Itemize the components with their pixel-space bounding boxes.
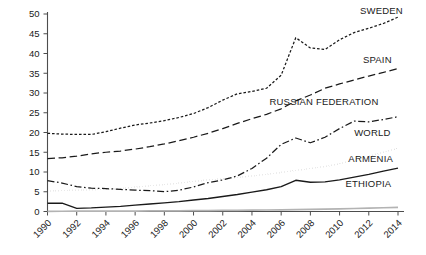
x-tick-label: 2002 [206, 217, 229, 240]
y-tick-label: 5 [34, 186, 39, 197]
y-tick-label: 30 [29, 87, 40, 98]
series-label-armenia: ARMENIA [348, 153, 393, 164]
y-tick-label: 10 [29, 166, 40, 177]
y-axis: 05101520253035404550 [29, 8, 48, 217]
x-tick-label: 2012 [352, 217, 375, 240]
x-tick-label: 1998 [148, 217, 171, 240]
x-tick-label: 1992 [60, 217, 83, 240]
y-tick-label: 35 [29, 68, 40, 79]
x-tick-label: 2010 [323, 217, 346, 240]
y-tick-label: 25 [29, 107, 40, 118]
x-tick-label: 1994 [89, 217, 112, 240]
x-tick-label: 2004 [235, 217, 258, 240]
series-label-russian-federation: RUSSIAN FEDERATION [269, 96, 378, 107]
y-tick-label: 20 [29, 127, 40, 138]
y-tick-label: 15 [29, 147, 40, 158]
x-axis: 1990199219941996199820002002200420062008… [31, 212, 404, 240]
series-label-world: WORLD [354, 127, 390, 138]
series-line-spain [48, 69, 399, 159]
x-tick-label: 1990 [31, 217, 54, 240]
series-label-ethiopia: ETHIOPIA [345, 178, 391, 189]
x-tick-label: 2006 [264, 217, 287, 240]
x-tick-label: 1996 [118, 217, 141, 240]
y-tick-label: 40 [29, 48, 40, 59]
y-tick-label: 0 [34, 206, 39, 217]
x-tick-group: 1990199219941996199820002002200420062008… [31, 212, 404, 240]
chart-container: 05101520253035404550 1990199219941996199… [0, 0, 426, 255]
line-chart: 05101520253035404550 1990199219941996199… [0, 0, 426, 255]
x-tick-label: 2014 [381, 217, 404, 240]
series-label-sweden: SWEDEN [360, 5, 403, 16]
y-tick-label: 50 [29, 8, 40, 19]
series-label-group: SWEDENSPAINRUSSIAN FEDERATIONWORLDARMENI… [269, 5, 402, 189]
y-tick-label: 45 [29, 28, 40, 39]
x-tick-label: 2000 [177, 217, 200, 240]
x-tick-label: 2008 [294, 217, 317, 240]
y-tick-group: 05101520253035404550 [29, 8, 48, 217]
series-line-sweden [48, 17, 399, 134]
series-label-spain: SPAIN [363, 54, 392, 65]
